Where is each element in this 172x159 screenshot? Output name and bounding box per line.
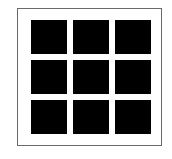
grid-cell-r1c1 [31, 20, 67, 54]
grid-cell-r3c1 [31, 100, 67, 134]
grid-3x3-icon [31, 20, 151, 134]
grid-cell-r1c3 [115, 20, 151, 54]
grid-cell-r2c2 [73, 60, 109, 94]
grid-cell-r2c3 [115, 60, 151, 94]
grid-cell-r3c3 [115, 100, 151, 134]
grid-cell-r3c2 [73, 100, 109, 134]
grid-icon-frame [17, 8, 162, 146]
grid-cell-r1c2 [73, 20, 109, 54]
grid-cell-r2c1 [31, 60, 67, 94]
